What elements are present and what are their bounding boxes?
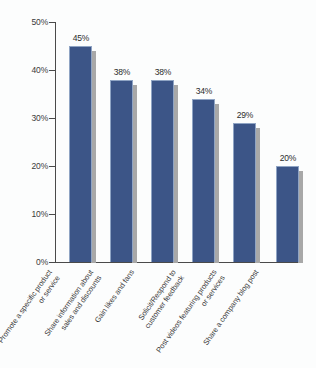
- bar-value-label: 34%: [186, 86, 222, 96]
- bar-slot: 29%: [233, 22, 261, 262]
- bar-chart: 0%10%20%30%40%50% 45%38%38%34%29%20% Pro…: [0, 0, 316, 368]
- x-axis-category-labels: Promote a specific productor serviceShar…: [0, 262, 316, 368]
- y-tick-label: 50%: [8, 17, 48, 27]
- y-tick-label: 20%: [8, 161, 48, 171]
- bar-slot: 45%: [69, 22, 97, 262]
- bar[interactable]: [110, 80, 133, 262]
- bar-slot: 38%: [151, 22, 179, 262]
- bar-slot: 34%: [192, 22, 220, 262]
- y-tick-label: 40%: [8, 65, 48, 75]
- bar-value-label: 45%: [63, 33, 99, 43]
- bar-value-label: 38%: [104, 67, 140, 77]
- bar[interactable]: [69, 46, 92, 262]
- bar-slot: 38%: [110, 22, 138, 262]
- bar-value-label: 29%: [227, 110, 263, 120]
- bar-value-label: 38%: [145, 67, 181, 77]
- bar[interactable]: [151, 80, 174, 262]
- y-tick-label: 30%: [8, 113, 48, 123]
- bar-value-label: 20%: [270, 153, 306, 163]
- bars-group: 45%38%38%34%29%20%: [55, 22, 302, 262]
- y-tick-label: 10%: [8, 209, 48, 219]
- bar[interactable]: [276, 166, 299, 262]
- bar[interactable]: [233, 123, 256, 262]
- bar[interactable]: [192, 99, 215, 262]
- bar-slot: 20%: [276, 22, 304, 262]
